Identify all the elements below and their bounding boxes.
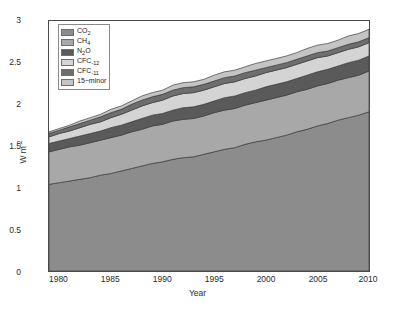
x-axis-label: Year [0, 288, 395, 298]
legend-swatch-cfc-12 [61, 59, 74, 66]
legend: CO2 CH4 N2O CFC-12 CFC-11 15−minor [58, 24, 110, 90]
y-tick-label-1: 1 [0, 183, 21, 193]
y-tick-label-3: 3 [0, 15, 21, 25]
x-tick-label-1995: 1995 [205, 274, 224, 284]
legend-swatch-co2 [61, 29, 74, 36]
figure: W m-2 3 2.5 2 1.5 1 0.5 0 1980 1985 1990… [0, 0, 395, 317]
y-tick-label-2: 2 [0, 99, 21, 109]
x-tick-label-2000: 2000 [257, 274, 276, 284]
y-tick-label-0-5: 0.5 [0, 225, 21, 235]
legend-item-15-minor: 15−minor [61, 77, 106, 87]
legend-swatch-15-minor [61, 79, 74, 86]
y-tick-label-2-5: 2.5 [0, 57, 21, 67]
x-tick-label-2010: 2010 [359, 274, 378, 284]
x-tick-label-1985: 1985 [101, 274, 120, 284]
legend-swatch-cfc-11 [61, 69, 74, 76]
y-tick-label-0: 0 [0, 267, 21, 277]
y-axis-label: W m-2 [16, 122, 28, 182]
x-tick-label-1980: 1980 [49, 274, 68, 284]
x-tick-label-2005: 2005 [309, 274, 328, 284]
legend-swatch-n2o [61, 49, 74, 56]
y-tick-label-1-5: 1.5 [0, 141, 21, 151]
legend-swatch-ch4 [61, 39, 74, 46]
x-tick-label-1990: 1990 [153, 274, 172, 284]
legend-label-15-minor: 15−minor [77, 76, 106, 88]
